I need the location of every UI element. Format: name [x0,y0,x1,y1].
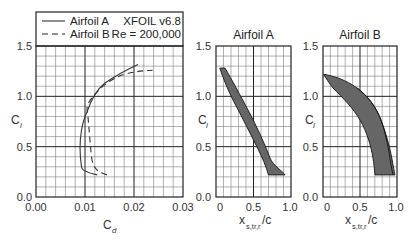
transition-chart-airfoil-b: Airfoil B [303,28,404,231]
x-axis-label-subscript: s,tr,r [246,222,261,231]
x-tick-label: 0.01 [74,201,95,213]
y-tick-label: 0.5 [303,141,318,153]
legend-label-airfoil-b: Airfoil B [70,28,110,40]
x-tick-label: 1.0 [388,201,403,213]
y-tick-label: 1.5 [303,40,318,52]
legend-label-airfoil-a: Airfoil A [70,15,109,27]
x-axis-label-tail: /c [368,213,377,227]
y-tick-label: 0.5 [196,141,211,153]
transition-chart-airfoil-a: Airfoil A [196,28,298,231]
figure: Airfoil A Airfoil B XFOIL v6.8 Re = 200,… [0,0,419,241]
software-annotation: XFOIL v6.8 [123,15,181,27]
y-tick-label: 1.0 [303,90,318,102]
airfoil-b-polar-curve [87,70,153,175]
chart-title: Airfoil A [233,28,274,42]
y-tick-label: 1.5 [196,40,211,52]
x-tick-label: 0 [324,201,330,213]
y-axis-label-subscript: l [313,121,315,130]
y-tick-label: 0.0 [196,191,211,203]
x-tick-label: 0.03 [172,201,193,213]
y-tick-label: 1.0 [17,90,32,102]
plot-frame [36,46,183,197]
x-axis-label: x [239,213,245,227]
x-axis-label-subscript: s,tr,r [352,222,367,231]
polar-chart: Airfoil A Airfoil B XFOIL v6.8 Re = 200,… [11,12,194,235]
x-tick-label: 0.02 [123,201,144,213]
x-axis-label-subscript: d [112,226,117,235]
y-axis-label-subscript: l [206,121,208,130]
airfoil-a-polar-curve [80,64,138,174]
chart-title: Airfoil B [339,28,380,42]
y-axis-label: C [11,113,20,127]
x-tick-label: 0.5 [246,201,261,213]
x-tick-label: 1.0 [282,201,297,213]
grid-minor [36,46,183,197]
x-tick-label: 0 [217,201,223,213]
y-tick-label: 0.5 [17,141,32,153]
x-axis-label-tail: /c [262,213,271,227]
y-tick-label: 1.5 [17,40,32,52]
y-tick-label: 1.0 [196,90,211,102]
y-tick-label: 0.0 [303,191,318,203]
reynolds-annotation: Re = 200,000 [112,28,181,40]
x-axis-label: C [103,218,112,232]
x-tick-label: 0.5 [352,201,367,213]
grid-major [36,46,183,197]
x-axis-label: x [345,213,351,227]
x-tick-label: 0.00 [25,201,46,213]
transition-band-airfoil-a [220,68,285,175]
y-axis-label-subscript: l [20,121,22,130]
